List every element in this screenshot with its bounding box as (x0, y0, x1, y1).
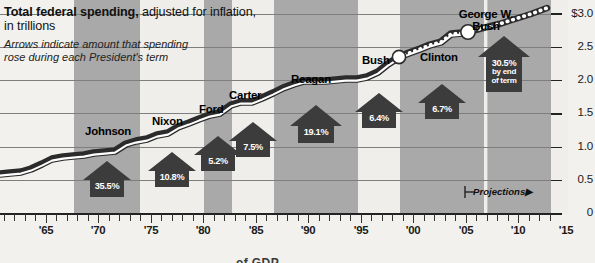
x-axis-label-15: '15 (551, 224, 581, 236)
title-bold: Total federal spending, (4, 5, 139, 19)
y-axis-label-1: 1.0 (559, 139, 593, 152)
increase-label-nixon: 10.8% (148, 172, 196, 182)
x-axis-label-10: '10 (503, 224, 533, 236)
president-label-clinton: Clinton (420, 51, 458, 63)
y-axis-label-1.5: 1.5 (559, 105, 593, 118)
x-axis-label-05: '05 (451, 224, 481, 236)
x-axis-label-70: '70 (83, 224, 113, 236)
y-axis-label-0: 0 (559, 205, 593, 218)
president-label-reagan: Reagan (291, 73, 331, 85)
title-line2: in trillions (4, 19, 55, 33)
president-label-carter: Carter (229, 89, 261, 101)
y-axis-label-2: 2.0 (559, 72, 593, 85)
x-axis-label-75: '75 (136, 224, 166, 236)
subtitle: Arrows indicate amount that spending ros… (4, 38, 294, 64)
subtitle-line1: Arrows indicate amount that spending (4, 38, 188, 50)
x-axis-label-00: '00 (398, 224, 428, 236)
subtitle-line2: rose during each President's term (4, 51, 168, 63)
president-label-nixon: Nixon (152, 115, 183, 127)
increase-label-clinton: 6.7% (418, 104, 466, 114)
president-label-ford: Ford (199, 103, 224, 115)
president-label-bush: Bush (362, 54, 390, 66)
increase-label-george-w-bush: 30.5% by end of term (478, 59, 530, 85)
x-tick-marks (4, 214, 550, 223)
marker-2001 (392, 50, 405, 63)
projections-annotation: Projections▶ (473, 186, 532, 197)
y-axis-label-0.5: 0.5 (559, 172, 593, 185)
projections-label: Projections (473, 186, 525, 197)
increase-label-bush: 6.4% (355, 113, 403, 123)
x-axis-label-65: '65 (31, 224, 61, 236)
president-label-george-w-bush: George W.Bush (450, 8, 522, 33)
increase-label-gwb-note2: of term (491, 76, 516, 85)
projections-arrow-icon: ▶ (525, 186, 532, 197)
x-axis-label-80: '80 (188, 224, 218, 236)
increase-label-reagan: 19.1% (290, 127, 342, 137)
cropped-footer-text: of GDP (236, 256, 279, 263)
increase-label-ford: 5.2% (194, 156, 242, 166)
y-axis-label-2.5: 2.5 (559, 39, 593, 52)
page-title: Total federal spending, adjusted for inf… (4, 6, 334, 33)
x-axis-label-95: '95 (346, 224, 376, 236)
x-axis-label-90: '90 (293, 224, 323, 236)
title-rest: adjusted for inflation, (139, 5, 256, 19)
president-label-johnson: Johnson (85, 125, 131, 137)
x-axis-label-85: '85 (241, 224, 271, 236)
increase-label-carter: 7.5% (229, 142, 277, 152)
increase-label-johnson: 35.5% (83, 181, 131, 191)
y-axis-label-3: $3.0 (559, 6, 593, 19)
